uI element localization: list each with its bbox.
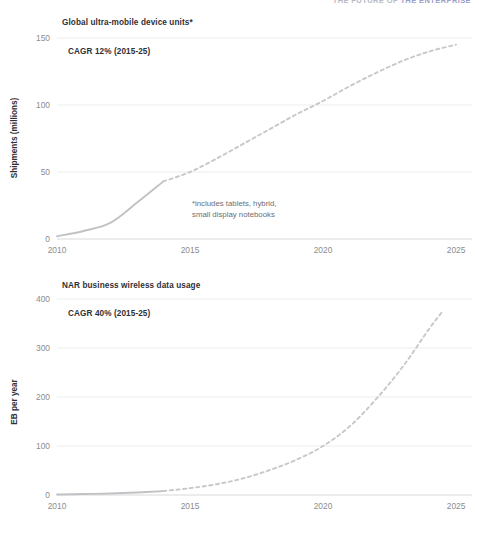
chart-cagr-2: CAGR 40% (2015-25) [68, 309, 150, 318]
svg-text:2025: 2025 [447, 501, 466, 511]
svg-text:400: 400 [36, 294, 50, 304]
svg-text:Shipments (millions): Shipments (millions) [10, 97, 19, 178]
svg-text:2015: 2015 [181, 501, 200, 511]
svg-text:50: 50 [41, 167, 51, 177]
svg-text:2020: 2020 [314, 501, 333, 511]
svg-text:150: 150 [36, 33, 50, 43]
chart-footnote-1: *includes tablets, hybrid, small display… [192, 198, 277, 220]
svg-text:0: 0 [45, 234, 50, 244]
svg-text:0: 0 [45, 490, 50, 500]
header-title-accent: THE ENTERPRISE [400, 0, 471, 5]
svg-text:200: 200 [36, 392, 50, 402]
svg-text:2015: 2015 [181, 245, 200, 255]
chart-panel-ultra-mobile-units: 0501001502010201520202025Shipments (mill… [0, 10, 479, 265]
chart-panel-wireless-data-usage: 01002003004002010201520202025EB per year… [0, 272, 479, 534]
svg-text:100: 100 [36, 441, 50, 451]
svg-text:EB per year: EB per year [10, 378, 19, 424]
page-header: THE FUTURE OF THE ENTERPRISE [0, 0, 479, 9]
svg-text:2020: 2020 [314, 245, 333, 255]
chart-title-1: Global ultra-mobile device units* [62, 18, 193, 27]
header-title: THE FUTURE OF THE ENTERPRISE [333, 0, 471, 5]
svg-text:2010: 2010 [48, 501, 67, 511]
svg-text:100: 100 [36, 100, 50, 110]
header-title-plain: THE FUTURE OF [333, 0, 401, 5]
svg-text:2025: 2025 [447, 245, 466, 255]
chart-cagr-1: CAGR 12% (2015-25) [68, 47, 150, 56]
svg-text:2010: 2010 [48, 245, 67, 255]
chart-title-2: NAR business wireless data usage [62, 281, 200, 290]
svg-text:300: 300 [36, 343, 50, 353]
